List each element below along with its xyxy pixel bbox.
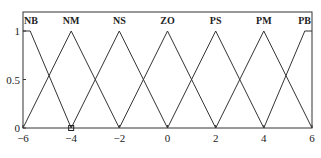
- mf-line-pm: [216, 31, 312, 128]
- x-tick-label: 4: [261, 132, 267, 144]
- y-tick-label: 0.5: [6, 74, 20, 86]
- x-tick-label: 6: [309, 132, 315, 144]
- mf-label-pb: PB: [298, 15, 311, 26]
- x-tick-label: 0: [165, 132, 171, 144]
- plot-frame: [23, 12, 312, 128]
- mf-label-pm: PM: [256, 15, 272, 26]
- y-tick-label: 0: [15, 122, 21, 134]
- x-tick-label: −2: [113, 132, 125, 144]
- mf-line-ps: [168, 31, 264, 128]
- mf-label-ps: PS: [210, 15, 222, 26]
- mf-line-zo: [119, 31, 215, 128]
- y-tick-label: 1: [15, 25, 21, 37]
- mf-label-ns: NS: [113, 15, 126, 26]
- mf-line-nm: [23, 31, 119, 128]
- membership-function-chart: −6−4−2024600.51 NBNMNSZOPSPMPB: [0, 0, 321, 158]
- x-tick-label: 2: [213, 132, 219, 144]
- x-tick-label: −4: [65, 132, 77, 144]
- mf-line-ns: [71, 31, 167, 128]
- mf-label-nb: NB: [24, 15, 38, 26]
- mf-label-nm: NM: [63, 15, 80, 26]
- mf-label-zo: ZO: [160, 15, 175, 26]
